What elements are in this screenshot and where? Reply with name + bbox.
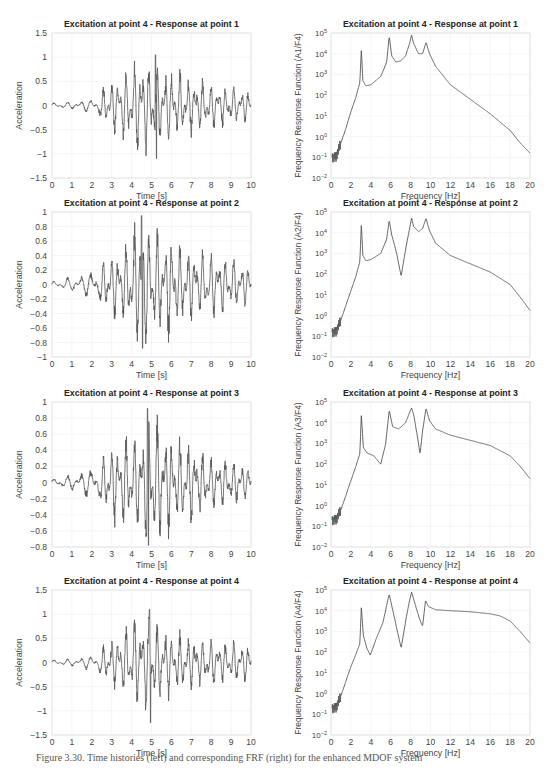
y-tick-label: −0.2 [30,294,47,304]
y-tick-label: −0.2 [30,494,47,504]
x-tick-label: 0 [50,737,55,747]
time-history-chart: 012345678910−1.5−1−0.500.511.5Excitation… [14,576,256,758]
y-axis-label: Frequency Response Function (A3/F4) [293,402,303,547]
time-history-chart: 012345678910−0.8−0.6−0.4−0.200.20.40.60.… [14,388,256,570]
y-tick-label: 1 [42,609,47,619]
y-tick-label: 0.8 [35,413,47,423]
chart-title: Excitation at point 4 - Response at poin… [64,19,239,29]
x-tick-label: 16 [485,549,495,559]
y-tick-label: 1 [42,52,47,62]
y-tick-label: −0.6 [30,323,47,333]
x-tick-label: 18 [505,359,515,369]
x-tick-label: 10 [426,737,436,747]
x-tick-label: 18 [505,549,515,559]
x-tick-label: 7 [189,180,194,190]
x-tick-label: 2 [89,180,94,190]
x-tick-label: 2 [349,359,354,369]
y-tick-label: 100 [315,501,327,511]
y-tick-label: −0.4 [30,510,47,520]
x-tick-label: 9 [229,180,234,190]
y-tick-label: 0.6 [35,429,47,439]
y-tick-label: 105 [315,397,327,407]
x-tick-label: 4 [129,737,134,747]
y-tick-label: 102 [315,269,327,279]
x-tick-label: 0 [329,737,334,747]
x-tick-label: 4 [129,359,134,369]
y-tick-label: 0 [42,101,47,111]
y-tick-label: −0.4 [30,309,47,319]
time-history-chart: 012345678910−1−0.8−0.6−0.4−0.200.20.40.6… [14,198,256,380]
chart-title: Excitation at point 4 - Response at poin… [64,198,239,208]
y-axis-label: Acceleration [14,638,24,687]
frf-chart: 0246810121416182010−210−1100101102103104… [293,388,535,570]
y-tick-label: 100 [315,689,327,699]
x-tick-label: 7 [189,737,194,747]
x-tick-label: 4 [129,549,134,559]
frf-chart: 0246810121416182010−210−1100101102103104… [293,198,535,380]
y-tick-label: 105 [315,28,327,38]
x-tick-label: 1 [70,359,75,369]
x-tick-label: 9 [229,737,234,747]
x-tick-label: 3 [109,549,114,559]
x-tick-label: 8 [408,359,413,369]
y-tick-label: 1.5 [35,585,47,595]
x-tick-label: 8 [408,180,413,190]
y-tick-label: 1 [42,397,47,407]
y-tick-label: 10−1 [312,709,327,719]
x-tick-label: 1 [70,549,75,559]
x-tick-label: 12 [446,180,456,190]
y-tick-label: 10−2 [312,352,327,362]
y-tick-label: −0.6 [30,526,47,536]
x-tick-label: 3 [109,359,114,369]
y-tick-label: 101 [315,111,327,121]
x-tick-label: 8 [209,737,214,747]
y-tick-label: −1.5 [30,730,47,740]
y-tick-label: 0.5 [35,76,47,86]
y-tick-label: 10−2 [312,730,327,740]
y-tick-label: 104 [315,606,327,616]
x-tick-label: 6 [388,737,393,747]
y-tick-label: −0.8 [30,338,47,348]
x-tick-label: 8 [408,737,413,747]
y-tick-label: −0.5 [30,125,47,135]
y-tick-label: 103 [315,69,327,79]
x-axis-label: Frequency [Hz] [401,370,461,380]
y-tick-label: 10−1 [312,521,327,531]
x-tick-label: 0 [329,180,334,190]
x-tick-label: 2 [89,737,94,747]
x-tick-label: 20 [525,737,535,747]
x-tick-label: 2 [349,549,354,559]
y-tick-label: 0 [42,658,47,668]
x-tick-label: 8 [209,549,214,559]
x-tick-label: 7 [189,359,194,369]
y-tick-label: 10−2 [312,173,327,183]
y-tick-label: 0 [42,280,47,290]
x-tick-label: 4 [368,359,373,369]
frf-chart: 0246810121416182010−210−1100101102103104… [293,19,535,201]
y-tick-label: 104 [315,228,327,238]
x-tick-label: 10 [246,180,256,190]
x-tick-label: 2 [89,549,94,559]
x-tick-label: 8 [209,359,214,369]
y-tick-label: 0.4 [35,445,47,455]
x-tick-label: 5 [149,359,154,369]
x-tick-label: 20 [525,180,535,190]
x-tick-label: 12 [446,737,456,747]
x-tick-label: 14 [466,549,476,559]
x-tick-label: 6 [388,359,393,369]
x-axis-label: Frequency [Hz] [401,560,461,570]
y-tick-label: 100 [315,311,327,321]
y-tick-label: 10−1 [312,152,327,162]
x-tick-label: 10 [246,737,256,747]
figure-caption: Figure 3.30. Time histories (left) and c… [36,752,536,763]
x-tick-label: 18 [505,737,515,747]
y-tick-label: 105 [315,207,327,217]
y-tick-label: 103 [315,438,327,448]
x-tick-label: 14 [466,180,476,190]
y-tick-label: 101 [315,668,327,678]
x-tick-label: 2 [89,359,94,369]
x-axis-label: Time [s] [136,370,167,380]
y-tick-label: 0.2 [35,461,47,471]
chart-title: Excitation at point 4 - Response at poin… [343,19,518,29]
chart-title: Excitation at point 4 - Response at poin… [343,576,518,586]
